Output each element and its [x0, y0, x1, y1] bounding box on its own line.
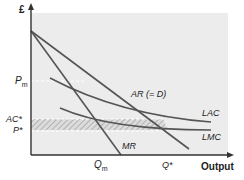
ar-label: AR (= D) [130, 89, 166, 99]
mr-label: MR [122, 141, 136, 151]
qstar-label: Q* [162, 160, 173, 170]
monopoly-diagram: £ Output Pm AC* P* Qm Q* AR (= D) MR LAC… [0, 0, 244, 180]
x-axis-label: Output [201, 161, 234, 172]
lac-label: LAC [202, 108, 220, 118]
qm-label: Qm [94, 159, 108, 172]
y-axis-arrow-icon [28, 3, 34, 10]
acstar-label: AC* [5, 114, 23, 124]
lmc-label: LMC [202, 132, 222, 142]
pm-label: Pm [15, 75, 28, 88]
x-axis-arrow-icon [227, 152, 234, 158]
pstar-label: P* [13, 125, 23, 135]
y-axis-label: £ [19, 4, 25, 15]
